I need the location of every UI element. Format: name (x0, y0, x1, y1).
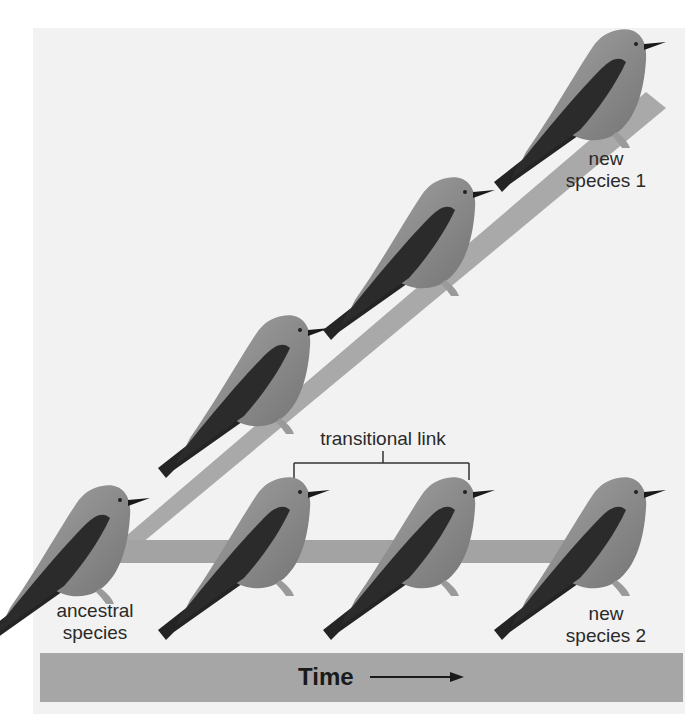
new-species-2-label: new species 2 (556, 603, 656, 647)
ancestral-label-line2: species (50, 622, 140, 644)
new-species-1-label: new species 1 (556, 148, 656, 192)
bird-transitional-2 (323, 477, 495, 640)
new-species-1-label-line2: species 1 (556, 170, 656, 192)
ancestral-species-label: ancestral species (50, 600, 140, 644)
new-species-2-label-line2: species 2 (556, 625, 656, 647)
speciation-diagram: ancestral species new species 1 new spec… (0, 0, 685, 714)
bird-transitional-1 (158, 477, 330, 640)
time-label: Time (298, 663, 354, 691)
new-species-1-label-line1: new (556, 148, 656, 170)
right-arrow-icon (370, 667, 466, 687)
bird-diagonal-2 (323, 177, 495, 340)
transitional-link-label: transitional link (303, 428, 463, 450)
new-species-2-label-line1: new (556, 603, 656, 625)
bird-diagonal-1 (158, 315, 330, 478)
ancestral-label-line1: ancestral (50, 600, 140, 622)
time-axis-bar: Time (40, 653, 683, 702)
